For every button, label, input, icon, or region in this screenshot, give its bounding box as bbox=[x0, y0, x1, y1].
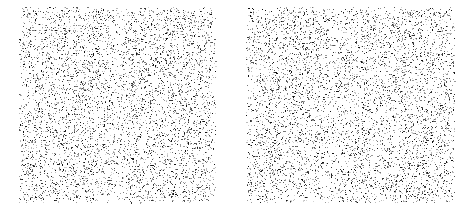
scatter-canvas bbox=[19, 7, 217, 204]
scatter-panel-left[interactable] bbox=[19, 7, 217, 204]
scatter-canvas bbox=[246, 7, 456, 204]
scatter-panel-right[interactable] bbox=[246, 7, 456, 204]
figure-root bbox=[0, 0, 471, 218]
